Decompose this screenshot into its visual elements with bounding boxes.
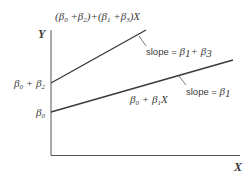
upper-slope-label: slope = β1+ β3: [146, 42, 212, 58]
upper-slope-leader: [139, 36, 146, 46]
lower-line-equation: β0 + β1X: [130, 94, 168, 105]
lower-slope-leader: [179, 76, 186, 85]
x-axis-label: X: [234, 161, 242, 173]
lower-intercept-label: β0: [36, 107, 45, 118]
upper-intercept-label: β0 + β2: [14, 78, 45, 89]
upper-regression-line: [51, 30, 146, 83]
lower-slope-label: slope = β1: [186, 82, 231, 98]
upper-line-equation: (β0 +β2)+(β1 +β3)X: [55, 11, 140, 22]
y-axis-label: Y: [38, 28, 45, 40]
